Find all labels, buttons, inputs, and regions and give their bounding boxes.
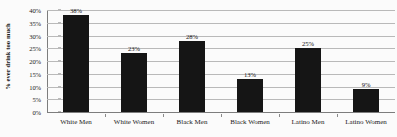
x-tick-label: White Women bbox=[114, 118, 154, 126]
bars: 38%23%28%13%25%9% bbox=[47, 10, 395, 112]
x-tick-mark bbox=[279, 114, 280, 117]
bar bbox=[237, 79, 263, 112]
bar-chart: % ever drink too much 0%5%10%15%20%25%30… bbox=[0, 0, 397, 137]
y-tick-label: 30% bbox=[29, 32, 41, 39]
axis-baseline bbox=[47, 112, 395, 113]
bar-value-label: 13% bbox=[244, 71, 256, 78]
x-tick-mark bbox=[221, 114, 222, 117]
bar bbox=[121, 53, 147, 112]
bar bbox=[353, 89, 379, 112]
y-tick-label: 0% bbox=[32, 109, 41, 116]
y-tick-label: 40% bbox=[29, 7, 41, 14]
y-tick-label: 10% bbox=[29, 83, 41, 90]
x-tick-label: Black Women bbox=[230, 118, 270, 126]
y-tick-label: 35% bbox=[29, 19, 41, 26]
x-tick-label: Black Men bbox=[177, 118, 208, 126]
y-tick-label: 15% bbox=[29, 70, 41, 77]
bar-group: 28% bbox=[163, 10, 221, 112]
bar-group: 13% bbox=[221, 10, 279, 112]
bar-value-label: 28% bbox=[186, 33, 198, 40]
bar bbox=[179, 41, 205, 112]
x-tick-mark bbox=[337, 114, 338, 117]
bar-value-label: 38% bbox=[70, 7, 82, 14]
y-tick-label: 25% bbox=[29, 45, 41, 52]
bar-value-label: 9% bbox=[362, 81, 371, 88]
x-tick-mark bbox=[105, 114, 106, 117]
bar-value-label: 23% bbox=[128, 45, 140, 52]
bar bbox=[295, 48, 321, 112]
x-axis-tick-labels: White MenWhite WomenBlack MenBlack Women… bbox=[47, 114, 395, 134]
x-tick-label: Latino Men bbox=[292, 118, 325, 126]
bar-group: 25% bbox=[279, 10, 337, 112]
bar-group: 38% bbox=[47, 10, 105, 112]
bar-value-label: 25% bbox=[302, 40, 314, 47]
bar-group: 9% bbox=[337, 10, 395, 112]
y-axis-title: % ever drink too much bbox=[0, 0, 14, 112]
plot-area: 38%23%28%13%25%9% bbox=[47, 10, 395, 112]
x-tick-mark bbox=[163, 114, 164, 117]
bar bbox=[63, 15, 89, 112]
y-axis-tick-labels: 0%5%10%15%20%25%30%35%40% bbox=[14, 0, 44, 112]
x-tick-label: Latino Women bbox=[345, 118, 387, 126]
y-tick-label: 5% bbox=[32, 96, 41, 103]
bar-group: 23% bbox=[105, 10, 163, 112]
y-tick-label: 20% bbox=[29, 58, 41, 65]
x-tick-label: White Men bbox=[60, 118, 92, 126]
y-axis-title-text: % ever drink too much bbox=[4, 23, 11, 90]
